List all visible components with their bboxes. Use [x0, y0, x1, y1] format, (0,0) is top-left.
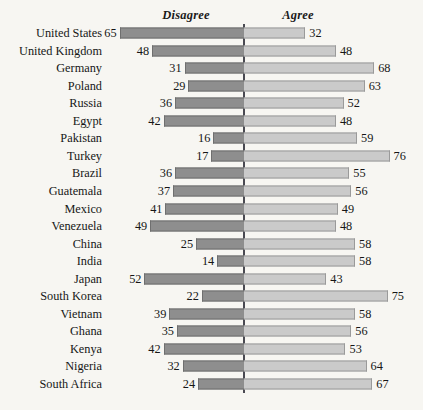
row-label-country: Poland	[68, 78, 102, 93]
bar-disagree	[202, 291, 244, 302]
chart-row: China2558	[0, 235, 423, 253]
bar-agree	[244, 273, 326, 284]
row-label-country: Nigeria	[65, 359, 102, 374]
value-label-agree: 49	[342, 201, 354, 216]
chart-row: Turkey1776	[0, 147, 423, 165]
bar-disagree	[196, 238, 244, 249]
row-label-country: Vietnam	[60, 306, 102, 321]
bar-agree	[244, 238, 355, 249]
row-label-country: Russia	[69, 96, 102, 111]
column-header-agree: Agree	[282, 8, 314, 23]
chart-row: Brazil3655	[0, 164, 423, 182]
chart-row: Pakistan1659	[0, 129, 423, 147]
value-label-disagree: 41	[150, 201, 162, 216]
value-label-disagree: 29	[173, 78, 185, 93]
value-label-agree: 76	[394, 148, 406, 163]
bar-disagree	[144, 273, 244, 284]
value-label-agree: 48	[340, 43, 352, 58]
bar-disagree	[152, 45, 244, 56]
row-label-country: Japan	[74, 271, 102, 286]
value-label-disagree: 42	[148, 113, 160, 128]
value-label-disagree: 36	[160, 166, 172, 181]
chart-row: United Kingdom4848	[0, 42, 423, 60]
value-label-agree: 58	[359, 236, 371, 251]
value-label-disagree: 37	[158, 183, 170, 198]
row-label-country: Brazil	[72, 166, 102, 181]
value-label-disagree: 39	[154, 306, 166, 321]
chart-row: Egypt4248	[0, 112, 423, 130]
value-label-disagree: 65	[104, 26, 116, 41]
bar-agree	[244, 80, 365, 91]
chart-row: United States6532	[0, 24, 423, 42]
bar-disagree	[213, 133, 244, 144]
row-label-country: India	[77, 254, 102, 269]
chart-row: Mexico4149	[0, 200, 423, 218]
row-label-country: Pakistan	[60, 131, 102, 146]
bar-agree	[244, 256, 355, 267]
value-label-agree: 68	[378, 61, 390, 76]
bar-agree	[244, 185, 351, 196]
value-label-disagree: 14	[202, 254, 214, 269]
row-label-country: United States	[36, 26, 102, 41]
row-label-country: Egypt	[73, 113, 102, 128]
bar-agree	[244, 168, 349, 179]
bar-disagree	[177, 326, 244, 337]
bar-disagree	[173, 185, 244, 196]
column-header-disagree: Disagree	[162, 8, 209, 23]
bar-disagree	[150, 221, 244, 232]
bar-agree	[244, 133, 357, 144]
value-label-agree: 63	[369, 78, 381, 93]
value-label-disagree: 48	[137, 43, 149, 58]
chart-row: Poland2963	[0, 77, 423, 95]
value-label-disagree: 32	[167, 359, 179, 374]
chart-row: South Africa2467	[0, 375, 423, 393]
row-label-country: South Korea	[40, 289, 102, 304]
bar-agree	[244, 115, 336, 126]
bar-disagree	[175, 98, 244, 109]
bar-agree	[244, 326, 351, 337]
row-label-country: United Kingdom	[19, 43, 102, 58]
bar-agree	[244, 150, 390, 161]
value-label-agree: 75	[392, 289, 404, 304]
value-label-agree: 58	[359, 306, 371, 321]
bar-disagree	[188, 80, 244, 91]
bar-disagree	[198, 379, 244, 390]
value-label-disagree: 16	[198, 131, 210, 146]
chart-row: Nigeria3264	[0, 357, 423, 375]
chart-row: Vietnam3958	[0, 305, 423, 323]
value-label-disagree: 52	[129, 271, 141, 286]
value-label-agree: 59	[361, 131, 373, 146]
value-label-disagree: 42	[148, 341, 160, 356]
value-label-disagree: 24	[183, 377, 195, 392]
value-label-agree: 43	[330, 271, 342, 286]
row-label-country: China	[73, 236, 102, 251]
chart-row: India1458	[0, 252, 423, 270]
value-label-agree: 55	[353, 166, 365, 181]
value-label-agree: 48	[340, 219, 352, 234]
row-label-country: Germany	[56, 61, 102, 76]
bar-agree	[244, 98, 344, 109]
value-label-agree: 64	[371, 359, 383, 374]
bar-disagree	[164, 115, 244, 126]
row-label-country: Mexico	[64, 201, 102, 216]
value-label-disagree: 49	[135, 219, 147, 234]
value-label-disagree: 22	[187, 289, 199, 304]
value-label-agree: 67	[376, 377, 388, 392]
bar-agree	[244, 45, 336, 56]
bar-agree	[244, 379, 372, 390]
bar-agree	[244, 221, 336, 232]
value-label-disagree: 25	[181, 236, 193, 251]
row-label-country: Turkey	[67, 148, 102, 163]
value-label-disagree: 35	[162, 324, 174, 339]
bar-disagree	[185, 63, 244, 74]
bar-agree	[244, 203, 338, 214]
bar-disagree	[164, 343, 244, 354]
value-label-disagree: 36	[160, 96, 172, 111]
chart-row: Ghana3556	[0, 322, 423, 340]
bar-disagree	[165, 203, 244, 214]
row-label-country: Venezuela	[51, 219, 102, 234]
chart-row: Guatemala3756	[0, 182, 423, 200]
bar-agree	[244, 308, 355, 319]
bar-disagree	[175, 168, 244, 179]
value-label-agree: 56	[355, 324, 367, 339]
